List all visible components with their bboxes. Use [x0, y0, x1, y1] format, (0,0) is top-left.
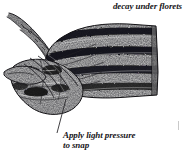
annotation-decay-under-florets: decay under florets [113, 1, 182, 11]
caption-line-1: Apply light pressure [63, 130, 147, 140]
illustration-page: decay under florets Apply light pressure… [0, 0, 185, 153]
caption-line-2: to snap [63, 140, 147, 150]
caption-apply-light-pressure: Apply light pressure to snap [63, 130, 147, 150]
scan-artifact-tick [178, 121, 179, 130]
